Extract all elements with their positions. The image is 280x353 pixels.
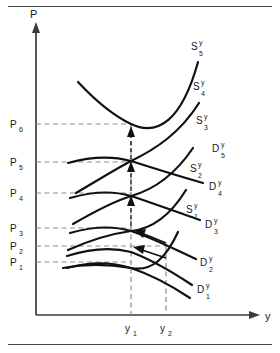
price-tick-p4-base: P <box>10 188 17 199</box>
bottom-divider-rule <box>8 344 272 345</box>
diagonal-arrow-upper <box>134 229 166 243</box>
supply-label-5: S y 5 <box>191 39 203 57</box>
demand-label-3-sub: 3 <box>214 228 218 235</box>
supply-label-3-sup: y <box>204 113 208 121</box>
demand-label-4-sup: y <box>218 179 222 187</box>
supply-label-1-sub: 1 <box>194 213 198 220</box>
top-divider-rule <box>8 6 272 7</box>
supply-label-4-sub: 4 <box>201 90 205 97</box>
supply-curve-4 <box>76 103 199 193</box>
supply-label-5-sub: 5 <box>199 50 203 57</box>
demand-label-2-sub: 2 <box>209 266 213 273</box>
price-tick-labels: P 6 P 5 P 4 P 3 P 2 P 1 <box>10 119 23 271</box>
quantity-tick-y2: y 2 <box>160 323 172 337</box>
y-axis-label: P <box>30 8 37 20</box>
y-axis-arrowhead <box>32 22 40 33</box>
demand-label-5: D y 5 <box>212 141 225 159</box>
demand-label-5-sub: 5 <box>221 152 225 159</box>
demand-label-2-base: D <box>200 257 207 268</box>
demand-label-4: D y 4 <box>209 179 222 197</box>
supply-label-1-sup: y <box>194 202 198 210</box>
quantity-tick-labels: y 1 y 2 <box>125 323 172 337</box>
supply-label-3: S y 3 <box>196 113 208 131</box>
price-tick-p3: P 3 <box>10 223 23 237</box>
supply-label-4-base: S <box>193 81 200 92</box>
demand-label-5-base: D <box>212 143 219 154</box>
demand-label-1-sup: y <box>206 282 210 290</box>
supply-label-5-base: S <box>191 41 198 52</box>
x-axis-arrowhead <box>249 311 260 319</box>
demand-label-1: D y 1 <box>197 282 210 300</box>
demand-label-1-base: D <box>197 284 204 295</box>
price-tick-p6: P 6 <box>10 119 23 133</box>
price-tick-p3-sub: 3 <box>19 230 23 237</box>
demand-label-1-sub: 1 <box>206 293 210 300</box>
price-tick-p3-base: P <box>10 223 17 234</box>
demand-label-4-base: D <box>209 181 216 192</box>
supply-label-2-base: S <box>190 163 197 174</box>
demand-label-3: D y 3 <box>205 217 218 235</box>
supply-demand-figure: P y P 6 P 5 P <box>0 0 280 353</box>
supply-label-2: S y 2 <box>190 161 202 179</box>
demand-label-3-base: D <box>205 219 212 230</box>
demand-label-2: D y 2 <box>200 255 213 273</box>
price-tick-p6-base: P <box>10 119 17 130</box>
supply-label-3-base: S <box>196 115 203 126</box>
price-tick-p4-sub: 4 <box>19 195 23 202</box>
quantity-tick-y1-sub: 1 <box>133 330 137 337</box>
price-tick-p4: P 4 <box>10 188 23 202</box>
quantity-tick-y1-base: y <box>125 323 130 334</box>
price-tick-p6-sub: 6 <box>19 126 23 133</box>
quantity-tick-y1: y 1 <box>125 323 137 337</box>
x-axis-label: y <box>265 310 271 322</box>
supply-label-2-sup: y <box>198 161 202 169</box>
diagonal-arrow-lower <box>133 245 166 258</box>
supply-curve-2 <box>68 190 186 250</box>
price-tick-p5-base: P <box>10 157 17 168</box>
price-tick-p1-base: P <box>10 257 17 268</box>
price-tick-p1-sub: 1 <box>19 264 23 271</box>
price-tick-p5-sub: 5 <box>19 164 23 171</box>
supply-label-2-sub: 2 <box>198 172 202 179</box>
demand-label-5-sup: y <box>221 141 225 149</box>
price-tick-p2: P 2 <box>10 241 23 255</box>
supply-label-3-sub: 3 <box>204 124 208 131</box>
price-tick-p5: P 5 <box>10 157 23 171</box>
chart-canvas: P y P 6 P 5 P <box>0 0 280 353</box>
price-tick-p1: P 1 <box>10 257 23 271</box>
supply-curve-5 <box>78 62 198 128</box>
demand-label-3-sup: y <box>214 217 218 225</box>
supply-label-4: S y 4 <box>193 79 205 97</box>
supply-label-4-sup: y <box>201 79 205 87</box>
price-tick-p2-base: P <box>10 241 17 252</box>
quantity-tick-y2-base: y <box>160 323 165 334</box>
quantity-tick-y2-sub: 2 <box>168 330 172 337</box>
supply-label-1-base: S <box>186 204 193 215</box>
demand-label-2-sup: y <box>209 255 213 263</box>
demand-label-4-sub: 4 <box>218 190 222 197</box>
supply-label-5-sup: y <box>199 39 203 47</box>
price-tick-p2-sub: 2 <box>19 248 23 255</box>
vertical-shift-arrows <box>127 126 135 226</box>
